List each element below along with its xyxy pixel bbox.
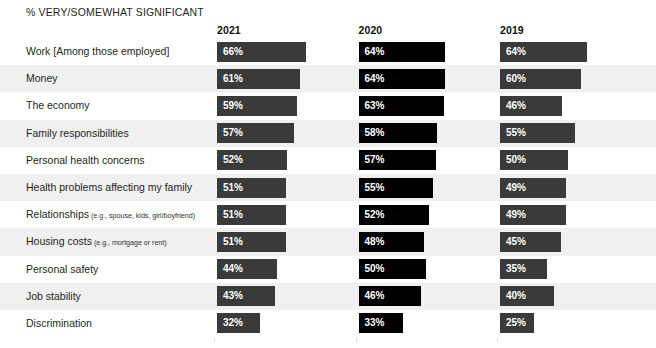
column-header-2021: 2021 (217, 24, 241, 36)
bar-2020: 33% (359, 313, 404, 333)
bar-2021: 66% (217, 42, 306, 62)
bar-value-label: 57% (223, 123, 243, 143)
bar-value-label: 45% (506, 232, 526, 252)
bar-2020: 63% (359, 96, 444, 116)
bar-value-label: 63% (365, 96, 385, 116)
bar-value-label: 55% (365, 178, 385, 198)
row-label-subtext: (e.g., mortgage or rent) (92, 238, 167, 247)
bar-value-label: 61% (223, 69, 243, 89)
bar-value-label: 32% (223, 313, 243, 333)
chart-rows: Work [Among those employed]66%64%64%Mone… (0, 38, 656, 337)
column-header-2020: 2020 (359, 24, 383, 36)
bar-value-label: 50% (365, 259, 385, 279)
bar-2020: 52% (359, 205, 429, 225)
row-label: Discrimination (26, 310, 92, 337)
bar-2021: 57% (217, 123, 294, 143)
row-label-text: Personal health concerns (26, 154, 145, 166)
row-label-text: Housing costs (26, 235, 92, 247)
bar-value-label: 51% (223, 232, 243, 252)
bar-value-label: 57% (365, 150, 385, 170)
bar-value-label: 51% (223, 205, 243, 225)
bar-2020: 64% (359, 69, 446, 89)
chart-row: Health problems affecting my family51%55… (0, 174, 656, 201)
bar-2020: 58% (359, 123, 438, 143)
bar-value-label: 52% (365, 205, 385, 225)
bar-2021: 51% (217, 205, 286, 225)
bar-2019: 45% (500, 232, 561, 252)
row-label-text: Family responsibilities (26, 127, 129, 139)
row-label: Personal safety (26, 256, 98, 283)
chart-row: Work [Among those employed]66%64%64% (0, 38, 656, 65)
bar-2021: 44% (217, 259, 277, 279)
chart-title: % VERY/SOMEWHAT SIGNIFICANT (26, 6, 204, 18)
bar-2021: 59% (217, 96, 297, 116)
bar-2019: 49% (500, 178, 566, 198)
bar-2020: 48% (359, 232, 424, 252)
bar-value-label: 44% (223, 259, 243, 279)
row-label-text: The economy (26, 99, 90, 111)
bar-2021: 32% (217, 313, 260, 333)
row-label-text: Money (26, 72, 58, 84)
row-label-text: Work [Among those employed] (26, 45, 169, 57)
bar-2021: 52% (217, 150, 287, 170)
bar-2019: 60% (500, 69, 581, 89)
bar-value-label: 46% (506, 96, 526, 116)
bar-2020: 64% (359, 42, 446, 62)
chart-row: Discrimination32%33%25% (0, 310, 656, 337)
row-label: Housing costs (e.g., mortgage or rent) (26, 228, 167, 255)
bar-2020: 57% (359, 150, 436, 170)
bar-2019: 55% (500, 123, 575, 143)
bar-value-label: 46% (365, 286, 385, 306)
bar-value-label: 25% (506, 313, 526, 333)
chart-row: Job stability43%46%40% (0, 283, 656, 310)
row-label: Relationships (e.g., spouse, kids, girl/… (26, 201, 195, 228)
chart-row: The economy59%63%46% (0, 92, 656, 119)
row-label: Family responsibilities (26, 120, 129, 147)
column-header-2019: 2019 (500, 24, 524, 36)
bar-value-label: 64% (506, 42, 526, 62)
row-label: Money (26, 65, 58, 92)
row-label: Health problems affecting my family (26, 174, 192, 201)
bar-2019: 50% (500, 150, 568, 170)
row-label-text: Health problems affecting my family (26, 181, 192, 193)
bar-value-label: 49% (506, 205, 526, 225)
bar-2019: 49% (500, 205, 566, 225)
bar-value-label: 64% (365, 42, 385, 62)
bar-value-label: 51% (223, 178, 243, 198)
bar-value-label: 40% (506, 286, 526, 306)
bar-value-label: 50% (506, 150, 526, 170)
bar-value-label: 58% (365, 123, 385, 143)
bar-value-label: 33% (365, 313, 385, 333)
bar-2019: 40% (500, 286, 554, 306)
chart-row: Family responsibilities57%58%55% (0, 120, 656, 147)
row-label: Work [Among those employed] (26, 38, 169, 65)
bar-2020: 55% (359, 178, 434, 198)
row-label-subtext: (e.g., spouse, kids, girl/boyfriend) (89, 211, 195, 220)
bar-2021: 43% (217, 286, 275, 306)
row-label-text: Job stability (26, 290, 81, 302)
bar-value-label: 59% (223, 96, 243, 116)
bar-2021: 51% (217, 178, 286, 198)
chart-row: Housing costs (e.g., mortgage or rent)51… (0, 228, 656, 255)
chart-row: Personal safety44%50%35% (0, 256, 656, 283)
row-label-text: Discrimination (26, 317, 92, 329)
bar-2020: 50% (359, 259, 427, 279)
bar-2019: 25% (500, 313, 534, 333)
chart-row: Money61%64%60% (0, 65, 656, 92)
bar-value-label: 48% (365, 232, 385, 252)
bar-2019: 64% (500, 42, 587, 62)
bar-value-label: 66% (223, 42, 243, 62)
bar-2021: 61% (217, 69, 300, 89)
bar-value-label: 64% (365, 69, 385, 89)
bar-value-label: 55% (506, 123, 526, 143)
row-label: Job stability (26, 283, 81, 310)
bar-2020: 46% (359, 286, 421, 306)
row-label: Personal health concerns (26, 147, 145, 174)
bar-value-label: 43% (223, 286, 243, 306)
row-label: The economy (26, 92, 90, 119)
row-label-text: Personal safety (26, 263, 98, 275)
bar-value-label: 49% (506, 178, 526, 198)
bar-value-label: 60% (506, 69, 526, 89)
chart-row: Relationships (e.g., spouse, kids, girl/… (0, 201, 656, 228)
chart-row: Personal health concerns52%57%50% (0, 147, 656, 174)
